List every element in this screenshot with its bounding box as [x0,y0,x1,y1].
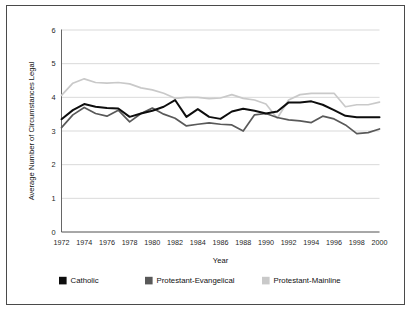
y-axis-title: Average Number of Circumstances Legal [27,61,36,200]
legend-swatch [145,277,153,285]
y-axis-title-text: Average Number of Circumstances Legal [27,61,36,200]
x-tick-label: 2000 [372,238,388,247]
legend-label: Protestant-Evangelical [157,276,235,285]
series-line-protestant-mainline [62,79,380,118]
x-tick-label: 1992 [281,238,297,247]
x-tick-label: 1978 [122,238,138,247]
chart-legend: CatholicProtestant-EvangelicalProtestant… [59,276,341,285]
y-tick-label: 4 [51,93,55,102]
y-tick-label: 1 [51,194,55,203]
x-tick-label: 1972 [54,238,70,247]
y-tick-labels: 0123456 [51,26,55,237]
data-series-group [62,79,380,134]
y-tick-label: 0 [51,228,55,237]
x-tick-label: 1988 [235,238,251,247]
legend-item[interactable]: Protestant-Evangelical [145,276,235,285]
legend-label: Catholic [71,276,99,285]
y-tick-label: 5 [51,59,55,68]
y-tick-label: 3 [51,127,55,136]
x-tick-labels: 1972197419761978198019821984198619881990… [54,238,388,247]
legend-label: Protestant-Mainline [274,276,341,285]
chart-container: 0123456 19721974197619781980198219841986… [0,0,413,312]
x-tick-label: 1976 [99,238,115,247]
x-axis-title: Year [213,256,229,265]
legend-item[interactable]: Protestant-Mainline [262,276,341,285]
x-tick-label: 1990 [258,238,274,247]
legend-item[interactable]: Catholic [59,276,99,285]
legend-swatch [262,277,270,285]
legend-swatch [59,277,67,285]
x-tick-label: 1996 [326,238,342,247]
x-tick-label: 1980 [144,238,160,247]
y-tick-label: 6 [51,26,55,35]
x-tick-label: 1982 [167,238,183,247]
series-line-protestant-evangelical [62,107,380,133]
series-line-catholic [62,100,380,119]
y-tick-label: 2 [51,160,55,169]
x-tick-label: 1974 [76,238,92,247]
x-tick-label: 1986 [213,238,229,247]
gridlines [62,30,380,232]
x-axis-title-text: Year [213,256,229,265]
x-tick-label: 1998 [349,238,365,247]
line-chart: 0123456 19721974197619781980198219841986… [0,0,413,312]
x-tick-label: 1994 [303,238,319,247]
x-tick-label: 1984 [190,238,206,247]
